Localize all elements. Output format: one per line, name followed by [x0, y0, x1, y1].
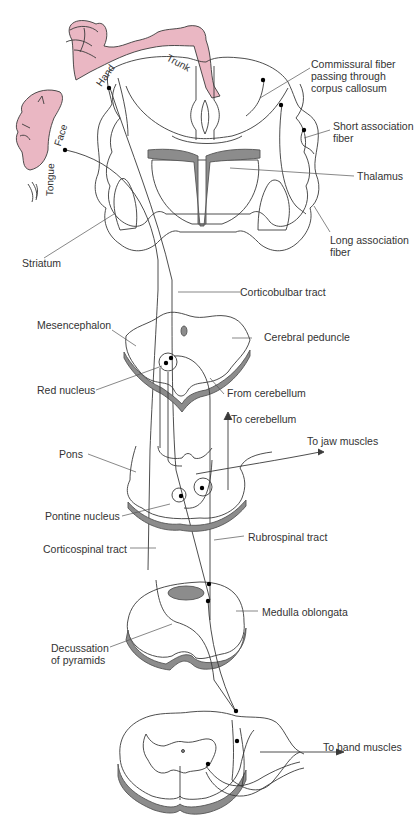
- spinal-cord-section: [118, 711, 344, 814]
- label-cerebral-peduncle: Cerebral peduncle: [264, 331, 350, 343]
- cerebrum-section: [66, 57, 319, 301]
- label-mesencephalon: Mesencephalon: [37, 319, 111, 331]
- label-short-association-fiber: Short association fiber: [333, 120, 414, 144]
- label-tongue: Tongue: [44, 163, 56, 196]
- label-red-nucleus: Red nucleus: [37, 384, 95, 396]
- label-long-association-fiber: Long association fiber: [330, 234, 409, 258]
- label-corticospinal-tract: Corticospinal tract: [43, 543, 127, 555]
- label-striatum: Striatum: [22, 257, 61, 269]
- label-medulla-oblongata: Medulla oblongata: [262, 606, 348, 618]
- label-pons: Pons: [59, 448, 83, 460]
- label-commissural-fiber: Commissural fiber passing through corpus…: [311, 58, 396, 94]
- descending-tracts: [148, 290, 240, 600]
- label-to-cerebellum: To cerebellum: [231, 413, 296, 425]
- label-from-cerebellum: From cerebellum: [227, 387, 306, 399]
- label-to-hand-muscles: To hand muscles: [323, 741, 402, 753]
- label-pontine-nucleus: Pontine nucleus: [45, 510, 120, 522]
- label-to-jaw-muscles: To jaw muscles: [307, 435, 378, 447]
- label-corticobulbar-tract: Corticobulbar tract: [240, 286, 326, 298]
- label-rubrospinal-tract: Rubrospinal tract: [248, 531, 327, 543]
- label-thalamus: Thalamus: [357, 170, 403, 182]
- label-decussation-of-pyramids: Decussation of pyramids: [51, 642, 109, 666]
- medulla-section: [126, 580, 246, 712]
